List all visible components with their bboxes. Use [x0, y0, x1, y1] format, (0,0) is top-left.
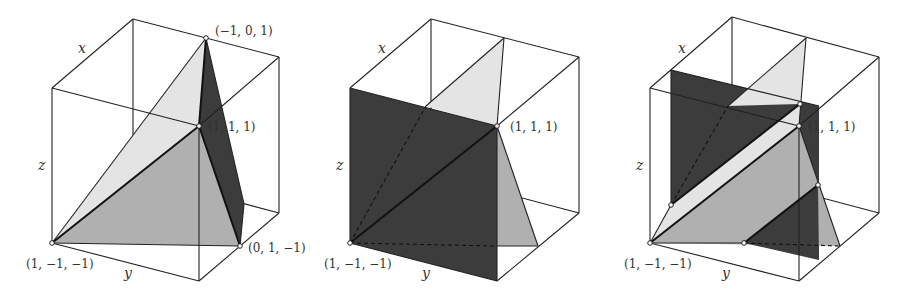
point-label: (1, −1, −1): [26, 257, 94, 271]
cube-edge: [52, 19, 133, 88]
axis-label-y: y: [421, 265, 431, 281]
point-label: (1, 1, 1): [208, 120, 256, 134]
vertex-point: [797, 124, 802, 129]
axis-label-z: z: [335, 157, 344, 173]
cube-edge: [431, 19, 579, 57]
panel-2: (1, 1, 1) (1, −1, −1) x z y: [324, 19, 579, 281]
axis-label-x: x: [378, 40, 386, 56]
panel-1: (−1, 0, 1) (1, 1, 1) (1, −1, −1) (0, 1, …: [26, 19, 306, 281]
vertex-point: [50, 241, 55, 246]
panel-3: (1, 1, 1) (1, −1, −1) x z y: [624, 17, 879, 281]
vertex-point: [238, 244, 243, 249]
axis-label-y: y: [123, 265, 133, 281]
point-label: (1, −1, −1): [624, 257, 692, 271]
cube-edge: [497, 57, 579, 126]
intersection-point: [742, 241, 747, 246]
axis-label-x: x: [78, 40, 86, 56]
point-label: (1, −1, −1): [324, 257, 392, 271]
axis-label-y: y: [721, 265, 731, 281]
point-label: (1, 1, 1): [808, 120, 856, 134]
vertex-point: [648, 241, 653, 246]
axis-label-z: z: [37, 157, 46, 173]
cube-edge: [799, 57, 879, 126]
intersection-point: [816, 183, 821, 188]
intersection-point: [798, 102, 803, 107]
vertex-point: [495, 124, 500, 129]
axis-label-z: z: [635, 157, 644, 173]
point-label: (1, 1, 1): [510, 120, 558, 134]
axis-label-x: x: [678, 40, 686, 56]
intersection-point: [669, 203, 674, 208]
point-label: (−1, 0, 1): [215, 24, 273, 38]
cube-diagrams: (−1, 0, 1) (1, 1, 1) (1, −1, −1) (0, 1, …: [0, 0, 907, 301]
vertex-point: [204, 36, 209, 41]
vertex-point: [348, 241, 353, 246]
vertex-point: [197, 124, 202, 129]
cube-edge: [350, 19, 431, 88]
point-label: (0, 1, −1): [248, 241, 306, 255]
